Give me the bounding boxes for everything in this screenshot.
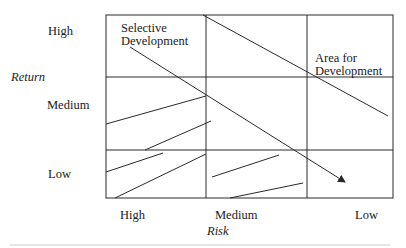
x-axis-title: Risk <box>207 224 229 238</box>
x-level-high: High <box>120 208 145 222</box>
selective-development-label-line2: Development <box>121 35 188 48</box>
selective-development-label: Selective Development <box>121 22 188 48</box>
x-level-medium: Medium <box>215 208 257 222</box>
risk-return-matrix-diagram: High Return Medium Low High Medium Low R… <box>0 0 406 248</box>
y-level-low: Low <box>48 167 71 181</box>
y-level-medium: Medium <box>47 98 89 112</box>
hatch-line <box>106 153 163 172</box>
area-for-development-label-line2: Development <box>315 65 382 78</box>
scan-artifact-band <box>10 244 390 246</box>
area-for-development-label: Area for Development <box>315 52 382 78</box>
y-level-high: High <box>48 24 73 38</box>
x-level-low: Low <box>355 208 378 222</box>
selective-development-arrow <box>130 47 345 182</box>
hatch-line <box>145 121 211 150</box>
y-axis-title: Return <box>11 70 45 84</box>
hatch-line <box>115 154 206 198</box>
hatch-line <box>106 96 206 124</box>
hatch-line <box>212 155 279 177</box>
hatch-line <box>230 183 303 198</box>
